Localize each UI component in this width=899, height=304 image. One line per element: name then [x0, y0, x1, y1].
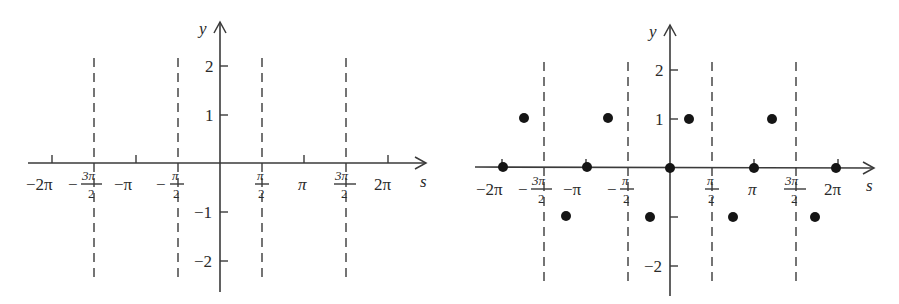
x-tick-label-negpi2-num: π: [622, 173, 629, 188]
point: [603, 113, 613, 123]
point: [665, 163, 675, 173]
y-tick-label-1: 1: [205, 106, 214, 125]
x-tick-label-negpi2-den: 2: [173, 186, 180, 201]
x-tick-label-3pi2-den: 2: [791, 191, 798, 206]
x-tick-label-negpi: −π: [114, 175, 133, 194]
x-tick-label-neg2pi: −2π: [26, 175, 53, 194]
right-plot: y s 2 1 −2 −2π − 3π 2 −π − π 2 π 2 π 3π …: [475, 22, 874, 296]
x-tick-label-neg3pi2-den: 2: [88, 186, 95, 201]
x-tick-label-pi: π: [748, 180, 757, 199]
x-tick-label-neg3pi2-num: 3π: [81, 168, 96, 183]
x-tick-label-neg3pi2-minus: −: [518, 180, 528, 199]
x-tick-label-pi: π: [298, 175, 307, 194]
x-tick-label-pi2-num: π: [707, 173, 714, 188]
point: [728, 212, 738, 222]
x-tick-label-negpi: −π: [563, 180, 582, 199]
x-axis-label: s: [866, 176, 873, 195]
x-tick-label-neg3pi2-den: 2: [538, 191, 545, 206]
point: [810, 212, 820, 222]
x-tick-label-pi2-den: 2: [708, 191, 715, 206]
point: [767, 114, 777, 124]
x-tick-label-3pi2-num: 3π: [334, 168, 349, 183]
x-tick-label-3pi2-den: 2: [341, 186, 348, 201]
point: [519, 113, 529, 123]
x-tick-label-negpi2-minus: −: [607, 180, 617, 199]
point: [561, 211, 571, 221]
figure: y s 2 1 −1 −2 −2π − 3π 2 −π − π 2 π 2 π …: [0, 0, 899, 304]
x-tick-label-2pi: 2π: [374, 175, 392, 194]
y-tick-label-2: 2: [205, 57, 214, 76]
y-tick-label-1: 1: [655, 110, 664, 129]
point: [645, 212, 655, 222]
point: [684, 114, 694, 124]
y-axis-label: y: [647, 22, 657, 41]
point: [498, 162, 508, 172]
y-tick-label-neg2: −2: [644, 257, 662, 276]
x-tick-label-pi2-den: 2: [258, 186, 265, 201]
x-tick-label-2pi: 2π: [824, 180, 842, 199]
y-tick-label-neg1: −1: [194, 203, 212, 222]
x-tick-label-neg3pi2-num: 3π: [531, 173, 546, 188]
point: [831, 163, 841, 173]
x-tick-label-negpi2-num: π: [172, 168, 179, 183]
x-tick-label-3pi2-num: 3π: [784, 173, 799, 188]
y-tick-label-neg2: −2: [194, 252, 212, 271]
x-tick-label-negpi2-minus: −: [156, 175, 166, 194]
x-tick-label-neg3pi2-minus: −: [68, 175, 78, 194]
x-tick-label-negpi2-den: 2: [623, 191, 630, 206]
y-tick-label-2: 2: [655, 61, 664, 80]
left-plot: y s 2 1 −1 −2 −2π − 3π 2 −π − π 2 π 2 π …: [26, 19, 427, 292]
x-axis-label: s: [420, 172, 427, 191]
x-tick-label-neg2pi: −2π: [476, 180, 503, 199]
x-tick-label-pi2-num: π: [257, 168, 264, 183]
y-axis-label: y: [197, 19, 207, 38]
point: [582, 162, 592, 172]
point: [749, 163, 759, 173]
